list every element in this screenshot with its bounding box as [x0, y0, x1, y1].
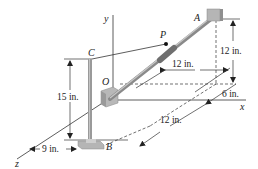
point-p-label: P [159, 29, 166, 40]
z-axis-label: z [14, 158, 19, 169]
x-axis-label: x [239, 101, 245, 112]
b-base-top [86, 139, 96, 143]
point-a-label: A [193, 12, 201, 23]
dim-b-x-offset-label: 9 in. [42, 144, 59, 154]
dashed-diagonal-a [178, 84, 216, 108]
dim-ax-span-label: 12 in. [172, 59, 194, 69]
a-block [207, 9, 220, 21]
point-o-label: O [102, 76, 109, 87]
mechanics-diagram: y x z 12 in. 12 in. 6 in. 12 in. 15 in. … [0, 0, 258, 169]
point-c-label: C [88, 47, 95, 58]
y-axis-label: y [103, 13, 109, 24]
point-p-dot [164, 42, 168, 46]
point-b-label: B [106, 141, 112, 152]
pole-cb-highlight [89, 59, 90, 143]
dim-a-height-label: 12 in. [220, 46, 242, 56]
a-block-side [220, 9, 223, 21]
cable-cp [92, 44, 166, 59]
dim-12in-z2 [140, 132, 160, 146]
dim-a-z-offset-label: 6 in. [222, 89, 239, 99]
dim-b-z-span-label: 12 in. [160, 115, 182, 125]
dim-c-height-label: 15 in. [57, 92, 79, 102]
